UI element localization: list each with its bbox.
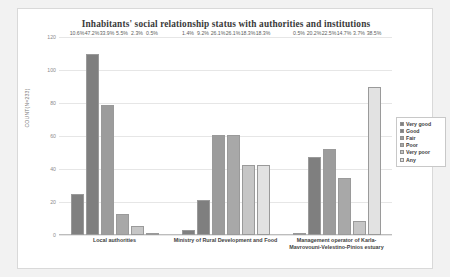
bar-value-label: 26.1% <box>226 30 241 36</box>
bar[interactable]: 26.1% <box>227 135 240 235</box>
bar-container: 18.3% <box>257 37 270 235</box>
bar-container: 5.5% <box>116 37 129 235</box>
bar-value-label: 2.3% <box>131 30 143 36</box>
bar[interactable]: 33.9% <box>101 105 114 235</box>
bar-container: 26.1% <box>227 37 240 235</box>
bar-container: 38.5% <box>368 37 381 235</box>
bar-value-label: 14.7% <box>337 30 352 36</box>
bar-container: 3.7% <box>353 37 366 235</box>
x-axis-category-label: Local authorities <box>59 237 170 252</box>
y-axis-tick-label: 120 <box>47 34 56 40</box>
bar-container: 9.2% <box>197 37 210 235</box>
bar[interactable]: 1.4% <box>182 230 195 235</box>
bar[interactable]: 26.1% <box>212 135 225 235</box>
legend-label: Any <box>406 157 416 163</box>
bar[interactable]: 3.7% <box>353 221 366 235</box>
legend-item[interactable]: Any <box>400 157 443 163</box>
bar[interactable]: 22.5% <box>323 149 336 235</box>
bar-groups: 10.6%47.2%33.9%5.5%2.3%0.5%1.4%9.2%26.1%… <box>59 37 392 235</box>
bar-container: 18.3% <box>242 37 255 235</box>
legend-item[interactable]: Very poor <box>400 149 443 155</box>
chart-screenshot: Inhabitants' social relationship status … <box>0 0 450 277</box>
legend-swatch-icon <box>400 129 404 133</box>
bar-group: 1.4%9.2%26.1%26.1%18.3%18.3% <box>170 37 281 235</box>
bar-container: 47.2% <box>86 37 99 235</box>
y-axis-tick-label: 80 <box>50 100 56 106</box>
bar-container: 26.1% <box>212 37 225 235</box>
y-axis-tick-label: 40 <box>50 166 56 172</box>
x-axis-category-label: Management operator of Karla-Mavrovouni-… <box>281 237 392 252</box>
bar[interactable]: 9.2% <box>197 200 210 235</box>
legend-swatch-icon <box>400 158 404 162</box>
legend-swatch-icon <box>400 122 404 126</box>
bar[interactable]: 5.5% <box>116 214 129 235</box>
legend-swatch-icon <box>400 150 404 154</box>
bar[interactable]: 20.2% <box>308 157 321 235</box>
legend-item[interactable]: Fair <box>400 135 443 141</box>
legend-swatch-icon <box>400 136 404 140</box>
legend-item[interactable]: Very good <box>400 121 443 127</box>
plot-area: 020406080100120 10.6%47.2%33.9%5.5%2.3%0… <box>59 37 392 235</box>
bar[interactable]: 2.3% <box>131 226 144 235</box>
bar-value-label: 5.5% <box>116 30 128 36</box>
bar-value-label: 47.2% <box>85 30 100 36</box>
legend-swatch-icon <box>400 143 404 147</box>
bar-container: 14.7% <box>338 37 351 235</box>
legend-label: Poor <box>406 142 418 148</box>
bar-value-label: 18.3% <box>241 30 256 36</box>
legend-item[interactable]: Good <box>400 128 443 134</box>
legend-label: Good <box>406 128 420 134</box>
bar[interactable]: 38.5% <box>368 87 381 235</box>
x-axis-category-label: Ministry of Rural Development and Food <box>170 237 281 252</box>
bar-value-label: 9.2% <box>197 30 209 36</box>
bar[interactable]: 0.5% <box>293 233 306 235</box>
chart-legend: Very goodGoodFairPoorVery poorAny <box>396 117 446 167</box>
y-axis-tick-label: 100 <box>47 67 56 73</box>
bar[interactable]: 10.6% <box>71 194 84 235</box>
bar-container: 33.9% <box>101 37 114 235</box>
legend-label: Very poor <box>406 149 430 155</box>
bar-value-label: 33.9% <box>100 30 115 36</box>
bar-container: 10.6% <box>71 37 84 235</box>
chart-canvas: Inhabitants' social relationship status … <box>17 8 433 269</box>
y-axis-tick-label: 60 <box>50 133 56 139</box>
bar-container: 0.5% <box>146 37 159 235</box>
bar-value-label: 1.4% <box>182 30 194 36</box>
bar[interactable]: 0.5% <box>146 233 159 235</box>
bar-value-label: 22.5% <box>322 30 337 36</box>
bar-group: 0.5%20.2%22.5%14.7%3.7%38.5% <box>281 37 392 235</box>
y-axis-label: COUNT(N=233) <box>24 88 30 127</box>
bar-value-label: 26.1% <box>211 30 226 36</box>
bar-container: 2.3% <box>131 37 144 235</box>
bar-group: 10.6%47.2%33.9%5.5%2.3%0.5% <box>59 37 170 235</box>
x-axis-categories: Local authoritiesMinistry of Rural Devel… <box>59 237 392 252</box>
bar[interactable]: 18.3% <box>257 165 270 235</box>
bar-container: 22.5% <box>323 37 336 235</box>
bar-value-label: 20.2% <box>307 30 322 36</box>
bar[interactable]: 14.7% <box>338 178 351 235</box>
bar-value-label: 38.5% <box>367 30 382 36</box>
y-axis-tick-label: 0 <box>53 232 56 238</box>
y-axis-tick-label: 20 <box>50 199 56 205</box>
legend-item[interactable]: Poor <box>400 142 443 148</box>
chart-title: Inhabitants' social relationship status … <box>18 19 434 29</box>
legend-label: Fair <box>406 135 416 141</box>
bar[interactable]: 47.2% <box>86 54 99 236</box>
bar-container: 0.5% <box>293 37 306 235</box>
bar-value-label: 3.7% <box>353 30 365 36</box>
legend-label: Very good <box>406 121 431 127</box>
bar-container: 1.4% <box>182 37 195 235</box>
bar-value-label: 10.6% <box>70 30 85 36</box>
bar-value-label: 0.5% <box>146 30 158 36</box>
bar-value-label: 18.3% <box>256 30 271 36</box>
bar[interactable]: 18.3% <box>242 165 255 235</box>
gridline <box>59 235 392 236</box>
bar-value-label: 0.5% <box>293 30 305 36</box>
bar-container: 20.2% <box>308 37 321 235</box>
